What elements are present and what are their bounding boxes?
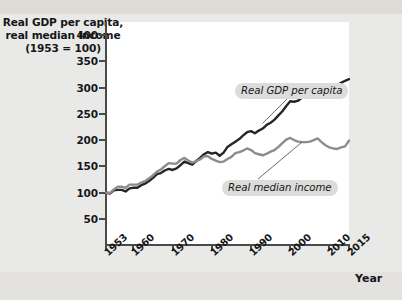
- callout-real-gdp-per-capita: Real GDP per capita: [235, 83, 348, 99]
- callout-leader-lines: [0, 0, 402, 300]
- leader-line: [258, 142, 302, 179]
- leader-line: [263, 97, 289, 123]
- callout-real-median-income: Real median income: [222, 180, 338, 196]
- chart-figure: Real GDP per capita, real median income …: [0, 0, 402, 300]
- x-axis-title: Year: [355, 272, 382, 285]
